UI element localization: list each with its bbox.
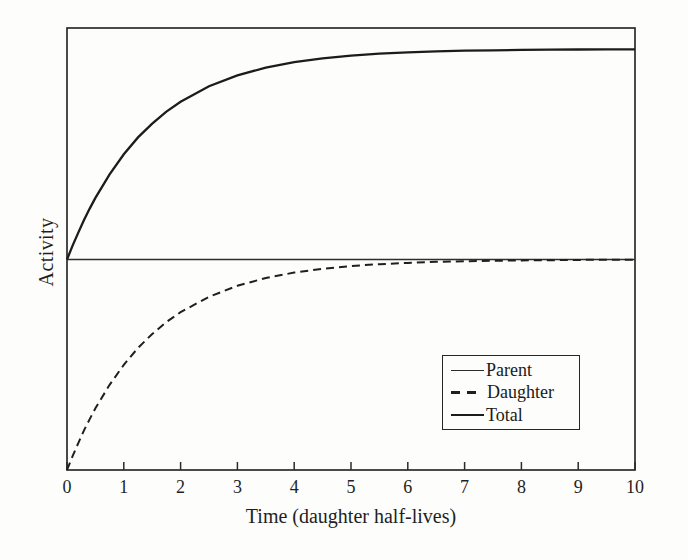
legend-entry-daughter: Daughter	[451, 383, 577, 401]
x-tick-label: 5	[347, 477, 356, 498]
x-tick-label: 10	[626, 477, 644, 498]
parent-line-sample-icon	[451, 370, 484, 371]
x-tick-label: 7	[460, 477, 469, 498]
legend-label-total: Total	[486, 406, 523, 424]
x-tick-label: 1	[119, 477, 128, 498]
y-axis-label: Activity	[35, 218, 58, 287]
daughter-dashed-line-sample-icon	[451, 391, 481, 393]
legend-entry-total: Total	[451, 406, 577, 424]
chart-svg	[0, 0, 688, 560]
x-tick-label: 9	[574, 477, 583, 498]
x-tick-labels: 012345678910	[0, 477, 688, 499]
legend-entry-parent: Parent	[451, 361, 577, 379]
x-tick-label: 8	[517, 477, 526, 498]
x-axis-label: Time (daughter half-lives)	[67, 505, 635, 528]
x-axis-ticks	[67, 462, 635, 470]
legend-label-parent: Parent	[486, 361, 532, 379]
total-curve	[67, 49, 635, 259]
x-tick-label: 4	[290, 477, 299, 498]
x-tick-label: 6	[403, 477, 412, 498]
legend: Parent Daughter Total	[442, 355, 580, 430]
x-tick-label: 0	[63, 477, 72, 498]
activity-vs-time-figure: 012345678910 Time (daughter half-lives) …	[0, 0, 688, 560]
x-tick-label: 2	[176, 477, 185, 498]
total-line-sample-icon	[451, 414, 484, 416]
legend-label-daughter: Daughter	[487, 383, 554, 401]
x-tick-label: 3	[233, 477, 242, 498]
